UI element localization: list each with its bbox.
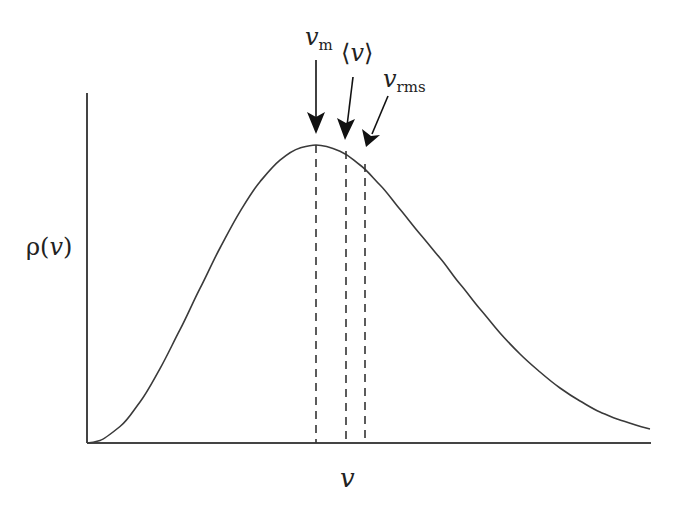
y-axis-label: ρ(v) [26,233,72,261]
vm-arrow [307,60,325,134]
vm-label: vm [305,23,333,54]
mean-arrowhead-icon [337,118,355,140]
x-axis-label: v [340,463,355,493]
maxwell-distribution-figure: vm ⟨v⟩ vrms ρ(v) v [0,0,676,522]
mean-arrow [337,77,355,140]
rms-label: vrms [383,65,426,96]
figure-svg: vm ⟨v⟩ vrms ρ(v) v [0,0,676,522]
mean-label: ⟨v⟩ [341,39,373,67]
distribution-curve [87,145,650,443]
rms-arrowhead-icon [362,129,380,147]
rms-arrow [362,96,388,147]
